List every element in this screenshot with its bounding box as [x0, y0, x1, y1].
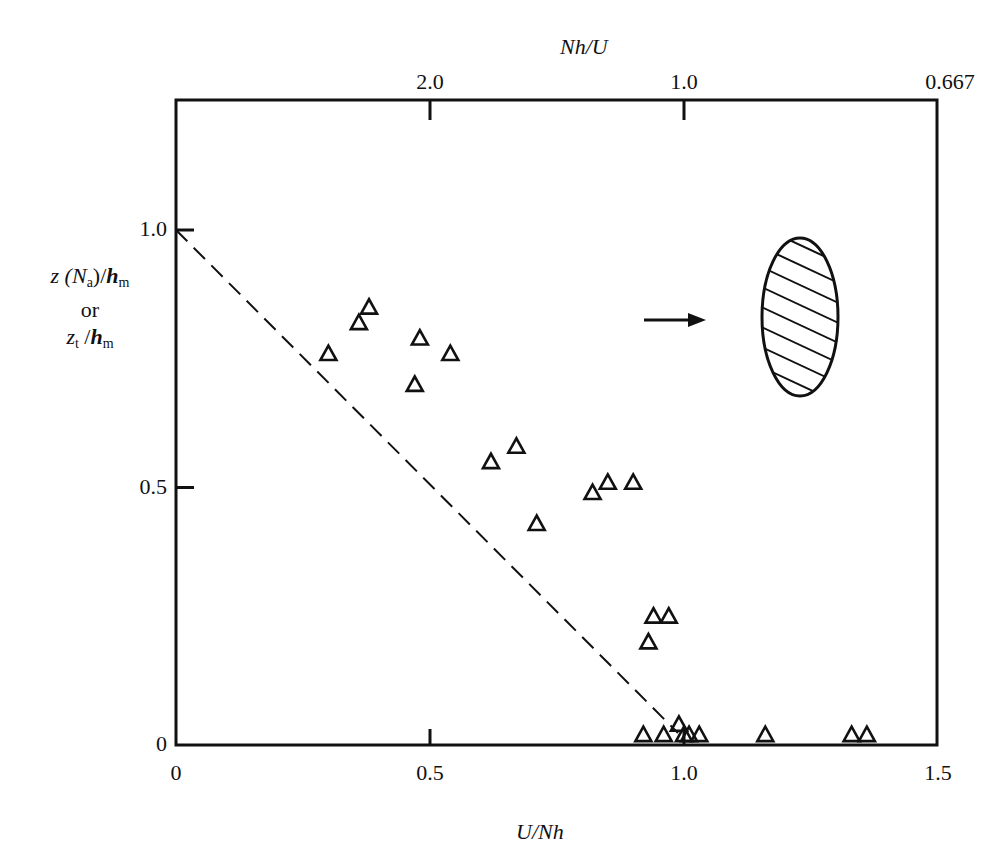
arrow-head-icon — [688, 313, 706, 327]
hatch-line — [740, 37, 860, 93]
x-axis-label: U/Nh — [516, 821, 564, 843]
triangle-marker — [508, 438, 524, 452]
hatch-line — [740, 417, 860, 473]
hatch-line — [740, 77, 860, 133]
x-tick-label: 1.0 — [670, 762, 698, 784]
y-label-text: / — [79, 324, 91, 349]
hatch-line — [740, 177, 860, 233]
y-tick-label: 0.5 — [140, 476, 168, 498]
triangle-marker — [640, 634, 656, 648]
triangle-marker — [656, 727, 672, 741]
x-tick-label: 0 — [171, 762, 182, 784]
triangle-marker — [412, 330, 428, 344]
y-label-line3: zt /hm — [20, 323, 160, 357]
hatching — [740, 17, 860, 493]
triangle-marker — [600, 474, 616, 488]
triangle-marker — [844, 727, 860, 741]
y-label-text: z (N — [51, 263, 87, 288]
triangle-marker — [361, 299, 377, 313]
y-label-text: )/ — [93, 263, 106, 288]
y-tick-label: 1.0 — [140, 218, 168, 240]
axis-ticks — [176, 100, 684, 745]
triangle-marker — [483, 454, 499, 468]
triangle-marker — [859, 727, 875, 741]
triangle-marker — [442, 346, 458, 360]
triangle-marker — [661, 608, 677, 622]
top-tick-label: 2.0 — [416, 71, 444, 93]
hatch-line — [740, 117, 860, 173]
plot-border — [176, 100, 937, 745]
y-label-sub: m — [119, 275, 130, 290]
y-label-line1: z (Na)/hm — [20, 262, 160, 296]
triangle-marker — [646, 608, 662, 622]
hatch-line — [740, 97, 860, 153]
triangle-marker — [625, 474, 641, 488]
triangle-marker — [320, 346, 336, 360]
y-label-sub: m — [103, 336, 114, 351]
y-label-h: h — [90, 324, 102, 349]
x-tick-label: 0.5 — [416, 762, 444, 784]
y-label-line2: or — [20, 296, 160, 323]
top-axis-label: Nh/U — [560, 36, 608, 58]
hatch-line — [740, 157, 860, 213]
hatch-line — [740, 17, 860, 73]
top-tick-label: 0.667 — [925, 71, 975, 93]
y-tick-label: 0 — [156, 733, 167, 755]
triangle-marker — [757, 727, 773, 741]
triangle-marker — [635, 727, 651, 741]
triangle-marker — [585, 485, 601, 499]
scatter-chart — [0, 0, 997, 859]
y-label-z: z — [66, 324, 75, 349]
triangle-marker — [407, 377, 423, 391]
hatch-line — [740, 397, 860, 453]
x-tick-label: 1.5 — [924, 762, 952, 784]
triangle-marker — [351, 315, 367, 329]
top-tick-label: 1.0 — [670, 71, 698, 93]
data-points — [320, 299, 874, 741]
triangle-marker — [529, 516, 545, 530]
hatch-line — [740, 437, 860, 493]
hatch-line — [740, 137, 860, 193]
hatch-line — [740, 57, 860, 113]
plot-frame — [176, 100, 937, 745]
y-label-h: h — [106, 263, 118, 288]
y-axis-label: z (Na)/hm or zt /hm — [20, 262, 160, 357]
